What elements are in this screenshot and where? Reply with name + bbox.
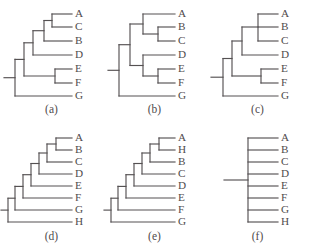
taxon-label: H <box>75 215 83 227</box>
taxon-label: E <box>178 62 185 74</box>
taxon-label: D <box>178 179 186 191</box>
taxon-label: F <box>281 76 287 88</box>
taxon-label: F <box>281 191 287 203</box>
taxon-label: D <box>281 167 289 179</box>
panel-c: A B C D E F G (c) <box>206 0 309 126</box>
taxon-label: B <box>281 20 288 32</box>
taxon-label: D <box>75 48 83 60</box>
taxon-labels-b: A B C D E F G <box>178 7 186 101</box>
panel-caption-e: (e) <box>103 230 206 242</box>
taxon-labels-f: A B C D E F G H <box>281 131 289 227</box>
taxon-labels-d: A B C D E F G H <box>75 131 83 227</box>
taxon-label: E <box>178 191 185 203</box>
taxon-label: D <box>178 48 186 60</box>
taxon-label: G <box>75 89 83 101</box>
taxon-label: C <box>281 34 288 46</box>
panel-f: A B C D E F G H (f) <box>206 126 309 252</box>
tree-branches-d <box>1 138 72 222</box>
taxon-labels-e: A H B C D E F G <box>178 131 186 227</box>
taxon-labels-a: A C B D E F G <box>75 7 83 101</box>
taxon-label: C <box>75 20 82 32</box>
taxon-label: B <box>178 155 185 167</box>
tree-branches-f <box>224 138 278 222</box>
tree-branches-e <box>104 138 175 222</box>
taxon-label: E <box>281 62 288 74</box>
taxon-label: F <box>178 76 184 88</box>
taxon-label: A <box>75 7 83 19</box>
panel-row-bottom: A B C D E F G H (d) <box>0 126 309 252</box>
taxon-label: B <box>75 34 82 46</box>
taxon-label: C <box>75 155 82 167</box>
taxon-label: F <box>75 76 81 88</box>
taxon-label: F <box>75 191 81 203</box>
taxon-label: G <box>75 203 83 215</box>
taxon-labels-c: A B C D E F G <box>281 7 289 101</box>
taxon-label: G <box>178 215 186 227</box>
taxon-label: F <box>178 203 184 215</box>
taxon-label: C <box>281 155 288 167</box>
tree-branches-a <box>4 14 72 96</box>
phylogenetic-tree-figure: A C B D E F G (a) <box>0 0 309 252</box>
taxon-label: E <box>75 62 82 74</box>
taxon-label: G <box>178 89 186 101</box>
panel-row-top: A C B D E F G (a) <box>0 0 309 126</box>
tree-branches-c <box>211 14 278 96</box>
panel-a: A C B D E F G (a) <box>0 0 103 126</box>
panel-e: A H B C D E F G (e) <box>103 126 206 252</box>
taxon-label: D <box>281 48 289 60</box>
taxon-label: A <box>178 7 186 19</box>
taxon-label: B <box>75 143 82 155</box>
taxon-label: G <box>281 89 289 101</box>
taxon-label: C <box>178 34 185 46</box>
panel-caption-f: (f) <box>206 230 309 242</box>
taxon-label: G <box>281 203 289 215</box>
taxon-label: A <box>281 7 289 19</box>
panel-d: A B C D E F G H (d) <box>0 126 103 252</box>
panel-caption-d: (d) <box>0 230 103 242</box>
taxon-label: E <box>281 179 288 191</box>
panel-b: A B C D E F G (b) <box>103 0 206 126</box>
taxon-label: D <box>75 167 83 179</box>
panel-caption-b: (b) <box>103 103 206 115</box>
tree-branches-b <box>108 14 175 96</box>
taxon-label: A <box>178 131 186 143</box>
taxon-label: B <box>281 143 288 155</box>
taxon-label: H <box>281 215 289 227</box>
panel-caption-a: (a) <box>0 103 103 115</box>
taxon-label: B <box>178 20 185 32</box>
taxon-label: H <box>178 143 186 155</box>
taxon-label: A <box>75 131 83 143</box>
taxon-label: C <box>178 167 185 179</box>
taxon-label: A <box>281 131 289 143</box>
panel-caption-c: (c) <box>206 103 309 115</box>
taxon-label: E <box>75 179 82 191</box>
